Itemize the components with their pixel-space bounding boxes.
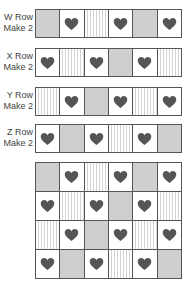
gray-block xyxy=(60,125,84,152)
striped-block xyxy=(109,125,133,152)
heart-icon xyxy=(162,170,177,184)
striped-block xyxy=(133,88,157,115)
heart-block xyxy=(133,250,157,278)
heart-icon xyxy=(89,257,104,271)
heart-icon xyxy=(137,56,152,70)
heart-icon xyxy=(89,132,104,146)
heart-block xyxy=(85,250,109,278)
heart-icon xyxy=(162,228,177,242)
row-quantity: Make 2 xyxy=(0,138,33,149)
heart-block xyxy=(36,192,60,220)
heart-block xyxy=(60,88,84,115)
row-quantity: Make 2 xyxy=(0,62,33,73)
heart-icon xyxy=(64,228,79,242)
row-quantity: Make 2 xyxy=(0,101,33,112)
heart-block xyxy=(158,88,181,115)
heart-block xyxy=(109,10,133,37)
row-label: Z RowMake 2 xyxy=(0,127,33,149)
row-label: X RowMake 2 xyxy=(0,51,33,73)
striped-block xyxy=(158,49,181,76)
heart-icon xyxy=(162,95,177,109)
striped-block xyxy=(36,88,60,115)
heart-block xyxy=(36,49,60,76)
heart-icon xyxy=(40,56,55,70)
heart-icon xyxy=(40,132,55,146)
striped-block xyxy=(60,192,84,220)
heart-icon xyxy=(113,95,128,109)
striped-block xyxy=(109,250,133,278)
striped-block xyxy=(85,10,109,37)
row-label: W RowMake 2 xyxy=(0,12,33,34)
heart-icon xyxy=(40,257,55,271)
heart-icon xyxy=(64,17,79,31)
heart-icon xyxy=(162,17,177,31)
heart-block xyxy=(109,221,133,249)
heart-block xyxy=(133,49,157,76)
heart-icon xyxy=(64,170,79,184)
striped-block xyxy=(60,49,84,76)
grid-row xyxy=(36,163,181,192)
heart-icon xyxy=(113,17,128,31)
gray-block xyxy=(109,49,133,76)
heart-block xyxy=(85,49,109,76)
heart-block xyxy=(158,163,181,191)
gray-block xyxy=(85,221,109,249)
row-name: W Row xyxy=(0,12,33,23)
gray-block xyxy=(36,163,60,191)
gray-block xyxy=(133,10,157,37)
striped-block xyxy=(158,192,181,220)
heart-block xyxy=(158,221,181,249)
heart-icon xyxy=(113,228,128,242)
grid-row xyxy=(36,250,181,278)
gray-block xyxy=(36,10,60,37)
heart-block xyxy=(36,125,60,152)
row-label: Y RowMake 2 xyxy=(0,90,33,112)
heart-icon xyxy=(137,199,152,213)
row-quantity: Make 2 xyxy=(0,23,33,34)
gray-block xyxy=(60,250,84,278)
row-strip xyxy=(35,87,182,116)
assembled-quilt-grid xyxy=(35,162,182,279)
striped-block xyxy=(85,163,109,191)
heart-block xyxy=(109,163,133,191)
heart-block xyxy=(133,192,157,220)
heart-block xyxy=(85,125,109,152)
heart-icon xyxy=(89,56,104,70)
heart-block xyxy=(60,163,84,191)
heart-icon xyxy=(40,199,55,213)
gray-block xyxy=(158,125,181,152)
row-name: Z Row xyxy=(0,127,33,138)
gray-block xyxy=(133,163,157,191)
heart-block xyxy=(36,250,60,278)
row-strip xyxy=(35,9,182,38)
gray-block xyxy=(85,88,109,115)
heart-icon xyxy=(89,199,104,213)
row-name: X Row xyxy=(0,51,33,62)
heart-block xyxy=(60,10,84,37)
heart-block xyxy=(133,125,157,152)
striped-block xyxy=(133,221,157,249)
heart-block xyxy=(60,221,84,249)
row-strip xyxy=(35,48,182,77)
row-name: Y Row xyxy=(0,90,33,101)
heart-icon xyxy=(64,95,79,109)
heart-icon xyxy=(137,132,152,146)
row-strip xyxy=(35,124,182,153)
heart-icon xyxy=(137,257,152,271)
heart-block xyxy=(85,192,109,220)
grid-row xyxy=(36,221,181,250)
grid-row xyxy=(36,192,181,221)
striped-block xyxy=(36,221,60,249)
heart-block xyxy=(158,10,181,37)
heart-block xyxy=(109,88,133,115)
gray-block xyxy=(158,250,181,278)
heart-icon xyxy=(113,170,128,184)
gray-block xyxy=(109,192,133,220)
